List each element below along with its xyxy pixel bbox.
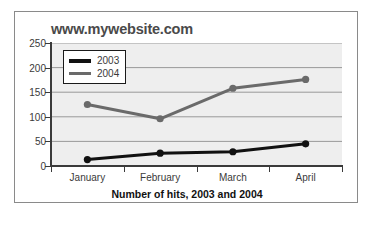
legend-swatch-icon [69, 59, 91, 63]
data-point-marker [84, 156, 91, 163]
y-tick-label: 50 [16, 136, 46, 147]
y-tick-mark [45, 92, 51, 93]
data-point-marker [157, 150, 164, 157]
data-point-marker [84, 101, 91, 108]
y-tick-label: 250 [16, 38, 46, 49]
data-point-marker [302, 140, 309, 147]
x-tick-label: March [219, 172, 247, 183]
y-tick-label: 200 [16, 62, 46, 73]
legend-item-2004: 2004 [69, 67, 119, 80]
legend-swatch-icon [69, 72, 91, 75]
x-tick-label: January [70, 172, 106, 183]
data-point-marker [157, 115, 164, 122]
chart-legend: 20032004 [63, 50, 126, 84]
chart-caption: Number of hits, 2003 and 2004 [0, 188, 374, 200]
legend-label: 2003 [97, 55, 119, 66]
data-series [84, 76, 309, 163]
data-point-marker [229, 148, 236, 155]
y-tick-label: 150 [16, 87, 46, 98]
data-point-marker [229, 85, 236, 92]
y-tick-mark [45, 117, 51, 118]
x-tick-mark [51, 167, 52, 172]
y-tick-mark [45, 68, 51, 69]
y-tick-mark [45, 43, 51, 44]
data-point-marker [302, 76, 309, 83]
y-tick-mark [45, 141, 51, 142]
x-tick-mark [342, 167, 343, 172]
x-tick-label: February [140, 172, 180, 183]
x-tick-mark [269, 167, 270, 172]
legend-label: 2004 [97, 68, 119, 79]
series-line-2003 [87, 144, 305, 160]
y-tick-label: 0 [16, 161, 46, 172]
y-tick-label: 100 [16, 111, 46, 122]
x-tick-mark [197, 167, 198, 172]
x-tick-label: April [296, 172, 316, 183]
series-line-2004 [87, 79, 305, 118]
chart-title: www.mywebsite.com [51, 21, 193, 37]
x-tick-mark [124, 167, 125, 172]
legend-item-2003: 2003 [69, 54, 119, 67]
y-axis-line [50, 42, 52, 167]
